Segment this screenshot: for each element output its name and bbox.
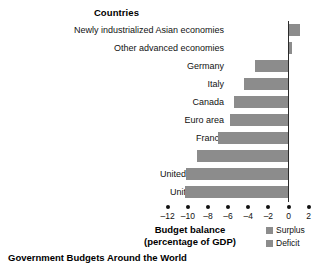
- zero-axis-line: [288, 21, 289, 202]
- bar-deficit: [244, 78, 288, 90]
- chart-axis-title-countries: Countries: [0, 7, 233, 18]
- x-axis-tick-label: –4: [243, 211, 252, 221]
- x-axis-tick-dot: [206, 205, 210, 209]
- chart-plot-area: Countries Newly industrialized Asian eco…: [0, 0, 331, 215]
- bar-deficit: [197, 150, 289, 162]
- bar-surplus: [289, 24, 300, 36]
- bar-deficit: [255, 60, 288, 72]
- legend-label: Surplus: [276, 225, 305, 235]
- bar-row: [0, 165, 331, 183]
- bar-deficit: [234, 96, 288, 108]
- chart-legend: SurplusDeficit: [266, 224, 331, 250]
- bar-row: [0, 21, 331, 39]
- x-axis-tick-dot: [287, 205, 291, 209]
- x-axis-tick-dot: [166, 205, 170, 209]
- legend-label: Deficit: [276, 238, 300, 248]
- bar-row: [0, 75, 331, 93]
- x-axis-tick-label: 2: [306, 211, 311, 221]
- x-axis-title-line2: (percentage of GDP): [120, 236, 260, 248]
- x-axis-tick-dot: [226, 205, 230, 209]
- square-swatch-icon: [266, 240, 273, 247]
- x-axis-tick-dot: [186, 205, 190, 209]
- square-swatch-icon: [266, 227, 273, 234]
- bar-deficit: [230, 114, 288, 126]
- x-axis-tick-dot: [307, 205, 311, 209]
- bar-deficit: [218, 132, 288, 144]
- bar-row: [0, 39, 331, 57]
- x-axis-tick-label: –8: [203, 211, 212, 221]
- bar-row: [0, 183, 331, 201]
- x-axis-tick-labels: –12–10–8–6–4–202: [0, 211, 331, 223]
- figure-government-budgets: Countries Newly industrialized Asian eco…: [0, 0, 331, 269]
- x-axis-tick-label: –6: [223, 211, 232, 221]
- bar-row: [0, 111, 331, 129]
- bar-row: [0, 57, 331, 75]
- bar-row: [0, 147, 331, 165]
- bar-row: [0, 93, 331, 111]
- x-axis-tick-label: 0: [286, 211, 291, 221]
- x-axis-tick-label: –10: [181, 211, 195, 221]
- x-axis-title-line1: Budget balance: [120, 224, 260, 236]
- figure-caption: Government Budgets Around the World: [8, 252, 187, 263]
- x-axis-title: Budget balance (percentage of GDP): [120, 224, 260, 248]
- bar-deficit: [186, 168, 289, 180]
- x-axis-tick-dot: [246, 205, 250, 209]
- x-axis-tick-label: –2: [264, 211, 273, 221]
- bar-row: [0, 129, 331, 147]
- legend-item: Deficit: [266, 237, 331, 249]
- bar-series: [0, 21, 331, 201]
- legend-item: Surplus: [266, 224, 331, 236]
- x-axis-tick-dot: [266, 205, 270, 209]
- x-axis-tick-label: –12: [161, 211, 175, 221]
- bar-deficit: [185, 186, 289, 198]
